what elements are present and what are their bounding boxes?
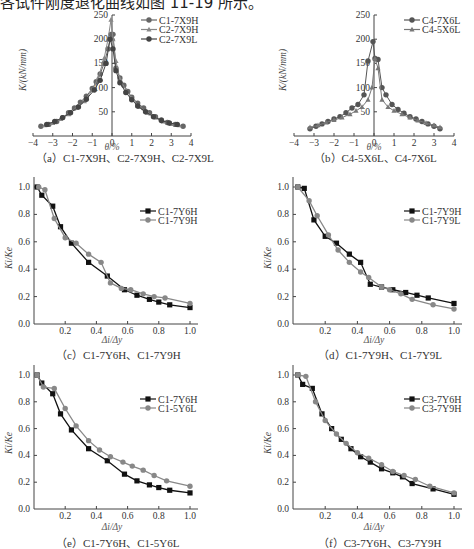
chart-d: 0.20.40.60.81.00.00.20.40.60.81.0Δi/ΔyKi… <box>263 177 462 345</box>
chart-b: −4−3−2−10123450100150200250θ/%K/(kN/mm)C… <box>278 10 460 152</box>
caption-a: （a）C1-7X9H、C2-7X9H、C2-7X9L <box>36 149 214 165</box>
svg-text:0.2: 0.2 <box>18 477 30 487</box>
svg-text:K/(kN/mm): K/(kN/mm) <box>278 49 289 92</box>
svg-text:Ki/Ke: Ki/Ke <box>4 247 14 270</box>
svg-text:0.6: 0.6 <box>18 424 30 434</box>
svg-text:C1-5Y6L: C1-5Y6L <box>158 403 196 414</box>
svg-text:C4-5X6L: C4-5X6L <box>422 24 460 35</box>
svg-text:100: 100 <box>356 83 371 93</box>
svg-text:0.6: 0.6 <box>384 326 396 336</box>
svg-text:0.2: 0.2 <box>59 326 71 336</box>
caption-b: （b）C4-5X6L、C4-7X6L <box>314 149 437 165</box>
svg-text:1.0: 1.0 <box>18 182 30 192</box>
svg-text:1.0: 1.0 <box>448 326 460 336</box>
svg-text:4: 4 <box>452 138 457 148</box>
svg-text:Ki/Ke: Ki/Ke <box>263 432 273 455</box>
series-line-C1-7Y9H <box>39 187 190 303</box>
svg-text:50: 50 <box>99 107 109 117</box>
series-line-C4-7X6L <box>310 42 440 129</box>
svg-text:3: 3 <box>432 138 437 148</box>
legend-d: C1-7Y9HC1-7Y9L <box>404 206 461 226</box>
svg-text:0.8: 0.8 <box>18 209 30 219</box>
chart-c: 0.20.40.60.81.00.00.20.40.60.81.0Δi/ΔyKi… <box>4 177 198 345</box>
series-line-C1-5Y6L <box>37 375 190 486</box>
svg-text:Δi/Δy: Δi/Δy <box>363 522 385 532</box>
svg-text:−3: −3 <box>48 138 58 148</box>
svg-text:2: 2 <box>412 138 417 148</box>
svg-text:0.6: 0.6 <box>122 511 134 521</box>
svg-text:0.6: 0.6 <box>384 511 396 521</box>
svg-text:0.4: 0.4 <box>351 511 363 521</box>
svg-text:0.4: 0.4 <box>351 326 363 336</box>
caption-f: （f）C3-7Y6H、C3-7Y9H <box>318 534 441 549</box>
svg-text:−2: −2 <box>329 138 339 148</box>
svg-text:Ki/Ke: Ki/Ke <box>4 432 14 455</box>
svg-text:200: 200 <box>94 34 109 44</box>
svg-text:0.8: 0.8 <box>416 326 428 336</box>
svg-text:0.8: 0.8 <box>153 511 165 521</box>
caption-c: （c）C1-7Y6H、C1-7Y9H <box>56 346 181 362</box>
svg-text:Δi/Δy: Δi/Δy <box>101 335 123 345</box>
svg-text:0.6: 0.6 <box>277 424 289 434</box>
svg-text:0.0: 0.0 <box>277 504 289 514</box>
svg-text:1.0: 1.0 <box>184 326 196 336</box>
svg-text:250: 250 <box>356 10 371 20</box>
svg-text:3: 3 <box>169 138 174 148</box>
svg-text:0.2: 0.2 <box>319 511 331 521</box>
svg-text:0.4: 0.4 <box>18 450 30 460</box>
svg-text:0.2: 0.2 <box>319 326 331 336</box>
svg-text:1.0: 1.0 <box>277 370 289 380</box>
svg-text:4: 4 <box>189 138 194 148</box>
svg-text:0.4: 0.4 <box>277 264 289 274</box>
svg-text:−4: −4 <box>28 138 38 148</box>
chart-a: −4−3−2−10123450100150200250θ/%K/(kN/mm)C… <box>18 10 198 152</box>
svg-text:0.4: 0.4 <box>277 450 289 460</box>
caption-e: （e）C1-7Y6H、C1-5Y6L <box>56 534 179 549</box>
figure-canvas: −4−3−2−10123450100150200250θ/%K/(kN/mm)C… <box>0 0 474 549</box>
svg-text:C3-7Y9H: C3-7Y9H <box>422 403 461 414</box>
svg-text:C2-7X9L: C2-7X9L <box>159 34 197 45</box>
legend-a: C1-7X9HC2-7X9HC2-7X9L <box>141 15 198 45</box>
svg-text:0.4: 0.4 <box>90 511 102 521</box>
svg-text:0.2: 0.2 <box>59 511 71 521</box>
svg-text:1.0: 1.0 <box>184 511 196 521</box>
legend-f: C3-7Y6HC3-7Y9H <box>404 394 461 414</box>
svg-text:0.8: 0.8 <box>153 326 165 336</box>
svg-text:1.0: 1.0 <box>448 511 460 521</box>
svg-text:0.8: 0.8 <box>277 397 289 407</box>
svg-text:0.0: 0.0 <box>277 319 289 329</box>
svg-text:1: 1 <box>129 138 134 148</box>
svg-text:0.6: 0.6 <box>18 237 30 247</box>
svg-text:Δi/Δy: Δi/Δy <box>101 522 123 532</box>
svg-text:250: 250 <box>94 10 109 20</box>
svg-text:0.8: 0.8 <box>277 209 289 219</box>
svg-text:2: 2 <box>149 138 154 148</box>
series-line-C4-5X6L <box>310 59 440 128</box>
svg-text:0.4: 0.4 <box>18 264 30 274</box>
svg-text:0.8: 0.8 <box>18 397 30 407</box>
legend-c: C1-7Y6HC1-7Y9H <box>140 206 197 226</box>
svg-text:C1-7Y9H: C1-7Y9H <box>158 215 197 226</box>
svg-text:0.2: 0.2 <box>277 477 289 487</box>
chart-f: 0.20.40.60.81.00.00.20.40.60.81.0Δi/ΔyKi… <box>263 365 462 532</box>
chart-e: 0.20.40.60.81.00.00.20.40.60.81.0Δi/ΔyKi… <box>4 365 198 532</box>
svg-text:−4: −4 <box>289 138 299 148</box>
svg-text:−1: −1 <box>349 138 359 148</box>
svg-text:0.0: 0.0 <box>18 504 30 514</box>
svg-text:C1-7Y9L: C1-7Y9L <box>422 215 460 226</box>
svg-text:0.2: 0.2 <box>277 292 289 302</box>
svg-text:0.8: 0.8 <box>416 511 428 521</box>
legend-e: C1-7Y6HC1-5Y6L <box>140 394 197 414</box>
svg-text:−1: −1 <box>87 138 97 148</box>
svg-text:−2: −2 <box>67 138 77 148</box>
svg-text:200: 200 <box>356 34 371 44</box>
svg-text:1.0: 1.0 <box>18 370 30 380</box>
caption-d: （d）C1-7Y9H、C1-7Y9L <box>318 346 442 362</box>
svg-text:0.6: 0.6 <box>122 326 134 336</box>
series-line-C1-7Y9H <box>298 187 454 303</box>
legend-b: C4-7X6LC4-5X6L <box>404 15 460 36</box>
svg-text:0.6: 0.6 <box>277 237 289 247</box>
svg-text:Ki/Ke: Ki/Ke <box>263 247 273 270</box>
svg-text:0.0: 0.0 <box>18 319 30 329</box>
svg-text:1.0: 1.0 <box>277 182 289 192</box>
